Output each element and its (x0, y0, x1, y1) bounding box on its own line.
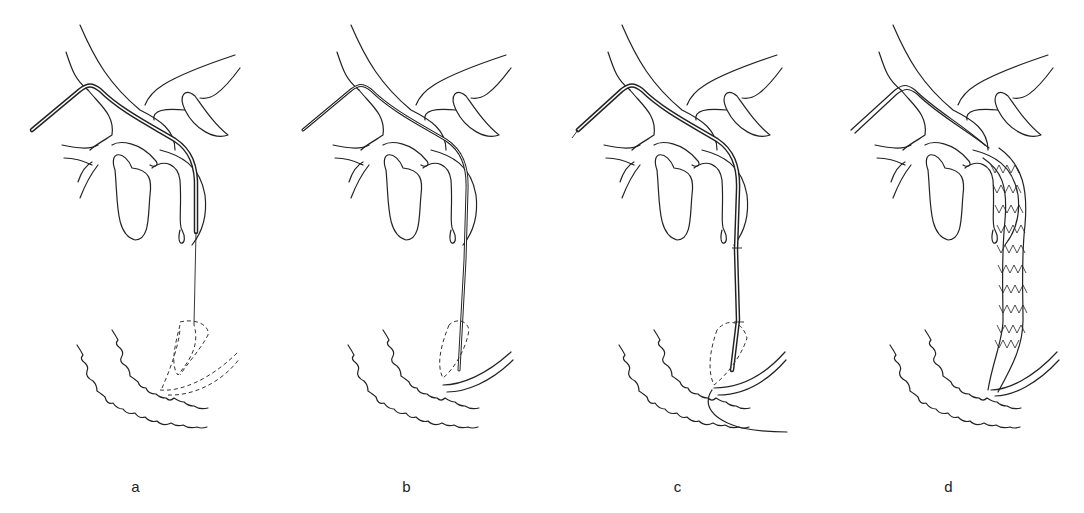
diagram-c (542, 0, 813, 513)
diagram-b (271, 0, 542, 513)
panel-label-c: c (542, 478, 813, 495)
panel-label-a: a (0, 478, 271, 495)
diagram-a (0, 0, 271, 513)
panel-b: b (271, 0, 542, 513)
panel-label-d: d (813, 478, 1084, 495)
panel-label-b: b (271, 478, 542, 495)
panel-d: d (813, 0, 1084, 513)
panel-a: a (0, 0, 271, 513)
panel-c: c (542, 0, 813, 513)
diagram-d (813, 0, 1084, 513)
